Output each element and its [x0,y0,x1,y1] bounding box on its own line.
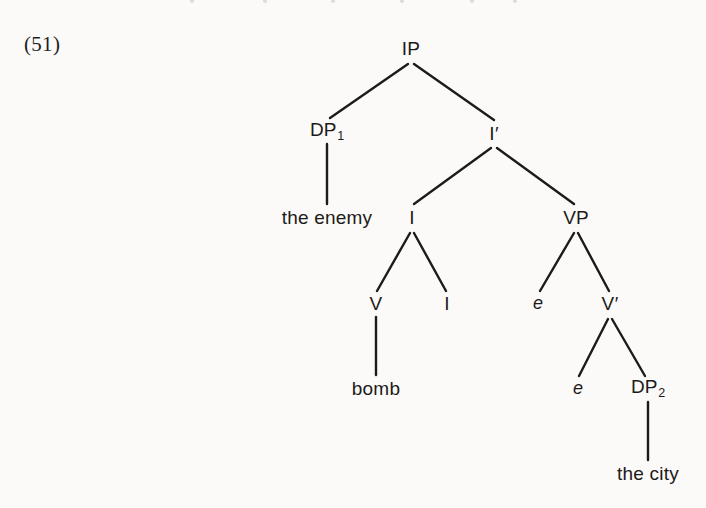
tree-edge-ip-to-ibar [414,64,494,120]
node-label-text: I [489,123,494,144]
node-label-text: I [444,293,449,314]
tree-node-e-vbar: e [573,379,583,397]
tree-edge-vp-to-e-vp [540,233,574,291]
node-prime-mark: ′ [615,293,619,314]
tree-edge-ibar-to-i [414,148,491,204]
node-label-text: bomb [352,378,400,399]
tree-node-i: I [409,208,414,227]
node-label-text: e [533,293,543,313]
tree-edge-i-to-v [377,233,410,291]
tree-edge-ibar-to-vp [497,148,574,204]
tree-edge-vp-to-vbar [578,233,609,291]
syntax-tree-figure: (51) IPDP1I′the enemyIVPVIeV′bombeDP2the… [0,0,706,508]
node-label-text: I [409,207,414,228]
node-label-text: IP [402,38,420,59]
tree-node-the-city: the city [617,464,679,483]
node-label-text: DP [310,119,337,140]
tree-node-dp2: DP2 [631,377,665,399]
node-label-text: VP [563,207,589,228]
tree-node-vp: VP [563,208,589,227]
tree-node-bomb: bomb [352,379,400,398]
tree-edge-i-to-i-head [414,233,446,291]
node-label-text: e [573,378,583,398]
node-prime-mark: ′ [495,123,499,144]
tree-node-ibar: I′ [489,124,499,143]
tree-node-dp1: DP1 [310,120,344,142]
tree-node-ip: IP [402,39,420,58]
node-label-text: the enemy [282,207,373,228]
node-subscript: 2 [658,386,665,400]
node-label-text: DP [631,376,658,397]
tree-edge-vbar-to-e-vbar [579,319,608,376]
tree-node-i-head: I [444,294,449,313]
node-subscript: 1 [337,129,344,143]
tree-edge-vbar-to-dp2 [612,319,645,376]
node-label-text: V [601,293,614,314]
node-label-text: the city [617,463,679,484]
tree-node-the-enemy: the enemy [282,208,373,227]
node-label-text: V [370,293,383,314]
tree-edge-ip-to-dp1 [330,64,408,118]
tree-node-e-vp: e [533,294,543,312]
tree-branches [0,0,706,508]
tree-node-vbar: V′ [601,294,618,313]
tree-node-v: V [370,294,383,313]
